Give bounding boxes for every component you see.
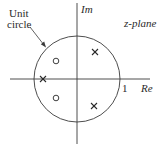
z-plane-label: z-plane (123, 17, 157, 29)
unit-circle-arrow (30, 27, 46, 48)
real-axis-tick-1: 1 (122, 82, 128, 94)
imaginary-axis-label: Im (80, 3, 93, 15)
zero-lower-left-icon (53, 95, 59, 101)
zero-upper-left-icon (53, 58, 59, 64)
z-plane-pole-zero-diagram: Unit circle Im z-plane 1 Re (0, 0, 165, 147)
z-plane-label-text: z-plane (123, 17, 157, 29)
pole-upper-right-icon (92, 49, 98, 55)
pole-lower-right-icon (91, 103, 97, 109)
real-axis-label: Re (140, 82, 153, 94)
unit-circle-label-line2: circle (7, 18, 32, 30)
